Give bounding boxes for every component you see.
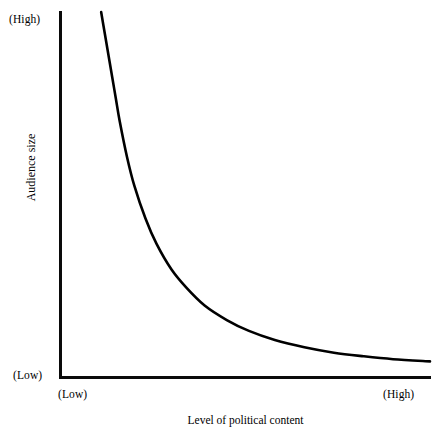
y-axis-title: Audience size [24, 113, 39, 223]
x-axis-high-tick-label: (High) [383, 388, 414, 400]
chart-background [0, 0, 441, 440]
x-axis-low-tick-label: (Low) [58, 388, 87, 400]
x-axis-title: Level of political content [60, 414, 431, 426]
chart-figure: (High) (Low) (Low) (High) Audience size … [0, 0, 441, 440]
y-axis-high-tick-label: (High) [9, 13, 40, 25]
y-axis-low-tick-label: (Low) [13, 369, 42, 381]
chart-plot-area [0, 0, 441, 440]
